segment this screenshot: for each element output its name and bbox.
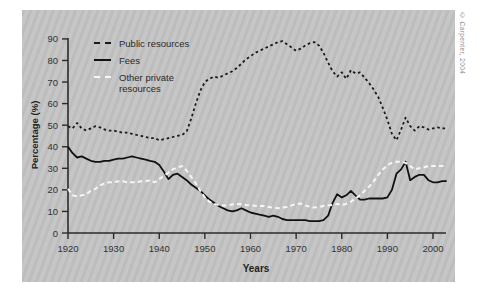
y-axis-ticks	[62, 39, 68, 233]
x-tick-label: 1970	[279, 243, 313, 254]
y-tick-label: 0	[28, 228, 58, 239]
x-tick-label: 1940	[142, 243, 176, 254]
legend-item-public-resources: Public resources	[94, 38, 201, 49]
legend-label: Fees	[119, 55, 140, 66]
x-axis-ticks	[68, 233, 433, 239]
legend: Public resources Fees Other private reso…	[94, 38, 201, 100]
x-tick-label: 1960	[234, 243, 268, 254]
legend-item-other-private-resources: Other private resources	[94, 72, 201, 94]
x-tick-label: 2000	[416, 243, 450, 254]
x-tick-label: 1950	[188, 243, 222, 254]
y-tick-label: 10	[28, 206, 58, 217]
x-tick-label: 1920	[51, 243, 85, 254]
dashed-black-line-swatch	[94, 42, 111, 44]
legend-label: Other private resources	[119, 72, 201, 94]
figure: 0102030405060708090 19201930194019501960…	[0, 0, 482, 304]
solid-black-line-swatch	[94, 59, 111, 61]
legend-item-fees: Fees	[94, 55, 201, 66]
y-axis-title: Percentage (%)	[29, 75, 43, 195]
chart-canvas	[0, 0, 482, 304]
x-tick-label: 1930	[97, 243, 131, 254]
copyright-note: © Carpenter, 2004	[459, 12, 466, 132]
x-axis-title: Years	[196, 263, 316, 274]
series-line-2	[68, 162, 447, 208]
y-tick-label: 90	[28, 33, 58, 44]
dashed-white-line-swatch	[94, 76, 111, 78]
legend-label: Public resources	[119, 38, 189, 49]
x-tick-label: 1980	[325, 243, 359, 254]
x-tick-label: 1990	[370, 243, 404, 254]
y-tick-label: 80	[28, 55, 58, 66]
series-line-1	[68, 147, 447, 221]
